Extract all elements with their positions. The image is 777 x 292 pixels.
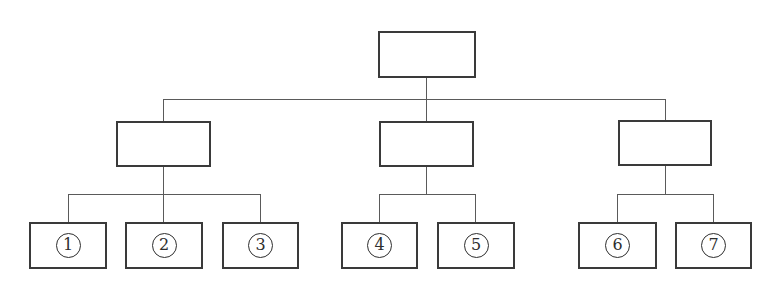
- connector-group3-bus: [617, 194, 714, 195]
- connector-branch1-down: [163, 167, 164, 194]
- connector-branch2-down: [426, 167, 427, 194]
- level2-box-3: [618, 120, 712, 166]
- connector-leaf7-drop: [713, 194, 714, 222]
- level2-box-2: [379, 121, 474, 167]
- connector-level1-bus: [163, 99, 666, 100]
- connector-leaf5-drop: [475, 194, 476, 222]
- connector-leaf1-drop: [68, 194, 69, 222]
- connector-branch3-drop: [665, 99, 666, 120]
- leaf-box-2: 2: [125, 222, 203, 269]
- root-box: [378, 31, 476, 78]
- connector-root-drop: [426, 78, 427, 100]
- circled-number-3: 3: [248, 233, 273, 258]
- connector-leaf6-drop: [617, 194, 618, 222]
- leaf-box-5: 5: [437, 222, 515, 269]
- leaf-box-4: 4: [341, 222, 418, 269]
- leaf-box-3: 3: [222, 222, 299, 269]
- circled-number-1: 1: [56, 233, 81, 258]
- circled-number-7: 7: [701, 233, 726, 258]
- connector-group2-bus: [379, 194, 476, 195]
- connector-group1-bus: [68, 194, 261, 195]
- connector-branch2-drop: [426, 99, 427, 121]
- leaf-box-7: 7: [675, 222, 752, 269]
- connector-branch1-drop: [163, 99, 164, 121]
- level2-box-1: [116, 121, 211, 167]
- connector-branch3-down: [665, 166, 666, 194]
- circled-number-4: 4: [367, 233, 392, 258]
- connector-leaf2-drop: [163, 194, 164, 222]
- leaf-box-1: 1: [29, 222, 107, 269]
- circled-number-6: 6: [605, 233, 630, 258]
- circled-number-2: 2: [152, 233, 177, 258]
- connector-leaf3-drop: [260, 194, 261, 222]
- org-tree-diagram: 1 2 3 4 5 6 7: [0, 0, 777, 292]
- circled-number-5: 5: [464, 233, 489, 258]
- connector-leaf4-drop: [379, 194, 380, 222]
- leaf-box-6: 6: [578, 222, 657, 269]
